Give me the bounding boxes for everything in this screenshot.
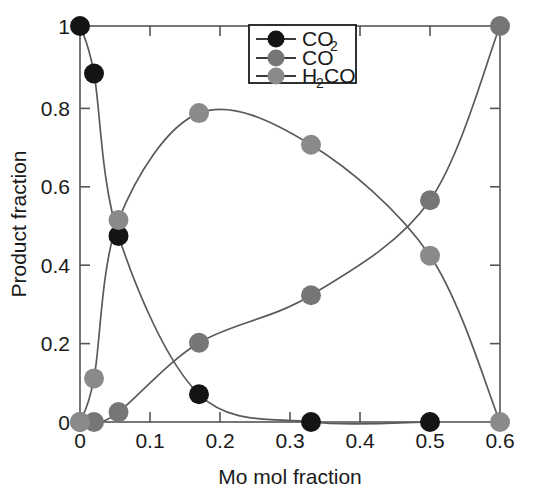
- x-tick-label: 0: [74, 429, 86, 452]
- x-axis-ticks: [150, 26, 430, 422]
- data-point: [490, 412, 510, 432]
- data-point: [301, 412, 321, 432]
- legend-marker-co2: [268, 31, 285, 48]
- y-tick-label: 0.6: [41, 175, 70, 198]
- series-line-co: [80, 26, 500, 423]
- y-tick-label: 0.2: [41, 332, 70, 355]
- data-point: [301, 135, 321, 155]
- x-tick-label: 0.2: [205, 429, 234, 452]
- data-point: [420, 246, 440, 266]
- data-point: [109, 210, 129, 230]
- data-point: [189, 103, 209, 123]
- chart-legend: CO 2 CO H 2 CO: [249, 25, 356, 91]
- data-point: [420, 412, 440, 432]
- x-tick-label: 0.6: [485, 429, 514, 452]
- y-tick-label: 0.8: [41, 97, 70, 120]
- legend-marker-h2co: [268, 68, 285, 85]
- data-point: [70, 412, 90, 432]
- y-axis-ticks: [80, 108, 500, 343]
- y-axis-title: Product fraction: [7, 150, 30, 297]
- x-tick-label: 0.3: [275, 429, 304, 452]
- x-tick-label: 0.5: [415, 429, 444, 452]
- legend-label-h2co-subscript: 2: [316, 75, 324, 91]
- legend-marker-co: [268, 50, 285, 67]
- series-line-co2: [80, 26, 430, 424]
- x-axis-tick-labels: 0 0.1 0.2 0.3 0.4 0.5 0.6: [74, 429, 514, 452]
- y-tick-label: 0.4: [41, 254, 71, 277]
- product-fraction-chart: 0 0.1 0.2 0.3 0.4 0.5 0.6 0 0.2 0.4 0.6 …: [0, 0, 541, 498]
- x-axis-title: Mo mol fraction: [218, 465, 362, 488]
- y-tick-label: 0: [58, 411, 70, 434]
- data-point: [70, 16, 90, 36]
- chart-figure: 0 0.1 0.2 0.3 0.4 0.5 0.6 0 0.2 0.4 0.6 …: [0, 0, 541, 498]
- legend-label-h2co-tail: CO: [324, 64, 356, 87]
- y-axis-tick-labels: 0 0.2 0.4 0.6 0.8 1: [41, 15, 71, 434]
- plot-frame: [80, 26, 500, 422]
- data-point: [301, 285, 321, 305]
- x-tick-label: 0.4: [345, 429, 375, 452]
- series-markers-h2co: [70, 103, 510, 432]
- data-point: [84, 64, 104, 84]
- y-tick-label: 1: [58, 15, 70, 38]
- data-point: [84, 368, 104, 388]
- data-point: [420, 190, 440, 210]
- series-line-h2co: [80, 109, 500, 422]
- data-point: [189, 333, 209, 353]
- data-point: [490, 16, 510, 36]
- x-tick-label: 0.1: [135, 429, 164, 452]
- legend-label-h2co: H: [302, 64, 317, 87]
- data-point: [189, 384, 209, 404]
- data-point: [109, 402, 129, 422]
